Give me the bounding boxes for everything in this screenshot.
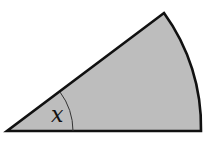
sector-diagram: x: [0, 0, 218, 150]
sector-shape: [7, 13, 201, 131]
sector-figure: [0, 0, 218, 150]
angle-label-x: x: [51, 104, 63, 126]
